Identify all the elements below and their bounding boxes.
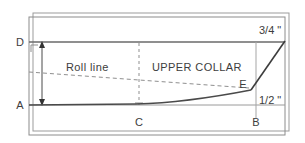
point-label-c: C [135, 116, 143, 128]
outer-frame-front [29, 17, 285, 135]
collar-pattern-diagram: D A C B E 3/4 " 1/2 " Roll line UPPER CO… [0, 0, 305, 143]
annotation-roll-line: Roll line [66, 61, 109, 73]
point-label-d: D [16, 36, 24, 48]
measurement-label-bottom-right: 1/2 " [259, 94, 281, 106]
point-label-e: E [239, 78, 246, 90]
right-angle-mark-icon [31, 45, 38, 52]
measurement-label-top-right: 3/4 " [259, 24, 281, 36]
point-label-a: A [16, 99, 24, 111]
annotation-upper-collar: UPPER COLLAR [152, 61, 242, 73]
point-label-b: B [252, 116, 259, 128]
collar-drawing-canvas: D A C B E 3/4 " 1/2 " Roll line UPPER CO… [0, 0, 305, 143]
